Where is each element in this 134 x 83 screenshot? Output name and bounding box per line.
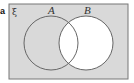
venn-diagram: a ξ A B bbox=[0, 0, 134, 83]
set-a-label: A bbox=[47, 4, 55, 16]
universal-set-symbol: ξ bbox=[12, 7, 17, 17]
part-label: a bbox=[0, 6, 6, 16]
set-b-label: B bbox=[84, 4, 91, 16]
